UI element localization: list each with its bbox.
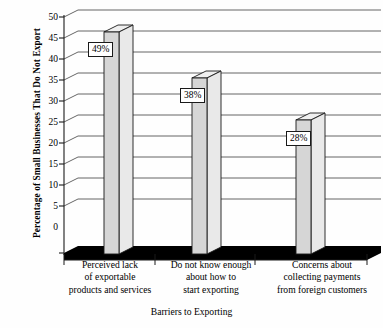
category-label-1: Perceived lack of exportable products an… <box>60 259 160 296</box>
bar-2-side <box>207 71 221 254</box>
category-label-3: Concerns about collecting payments from … <box>263 259 381 296</box>
bar-3-side <box>311 113 325 254</box>
category-label-1-line-1: Perceived lack <box>60 259 160 271</box>
bar-3-value-label: 28% <box>286 131 311 146</box>
bar-1-side <box>119 25 133 254</box>
category-label-2: Do not know enough about how to start ex… <box>159 259 263 296</box>
bar-1-front <box>104 32 119 254</box>
grid-line-50 <box>64 10 381 17</box>
category-label-3-line-2: collecting payments <box>263 271 381 283</box>
y-axis-ticks <box>59 17 64 253</box>
bar-1-value-label: 49% <box>88 42 113 57</box>
x-axis-title: Barriers to Exporting <box>0 306 383 317</box>
category-label-3-line-3: from foreign customers <box>263 284 381 296</box>
chart-figure: Percentage of Small Businesses That Do N… <box>0 0 383 328</box>
category-label-2-line-1: Do not know enough <box>159 259 263 271</box>
category-label-2-line-3: start exporting <box>159 284 263 296</box>
bar-2-value-label: 38% <box>180 88 205 103</box>
category-label-1-line-2: of exportable <box>60 271 160 283</box>
category-label-3-line-1: Concerns about <box>263 259 381 271</box>
x-axis-category-labels: Perceived lack of exportable products an… <box>60 259 383 305</box>
bar-2-front <box>192 78 207 254</box>
bar-1[interactable] <box>104 25 133 254</box>
category-label-2-line-2: about how to <box>159 271 263 283</box>
category-label-1-line-3: products and services <box>60 284 160 296</box>
